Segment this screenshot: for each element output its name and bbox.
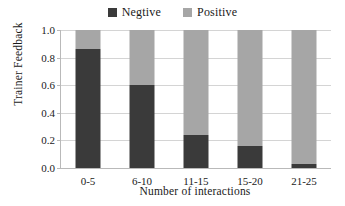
bar-segment-negtive[interactable] <box>238 146 263 168</box>
bar-segment-positive[interactable] <box>238 30 263 146</box>
bar-segment-positive[interactable] <box>184 30 209 135</box>
bar-segment-positive[interactable] <box>130 30 155 85</box>
legend-label-positive: Positive <box>197 6 237 18</box>
bar-group: 0-56-1011-1515-2021-25 <box>61 30 331 168</box>
y-axis-tick-label: 0.0 <box>41 162 55 174</box>
bar-slot: 6-10 <box>115 30 169 168</box>
bar-segment-negtive[interactable] <box>76 49 101 168</box>
y-axis-tick-label: 1.0 <box>41 24 55 36</box>
stacked-bar[interactable] <box>184 30 209 168</box>
stacked-bar[interactable] <box>238 30 263 168</box>
y-axis-tick-label: 0.6 <box>41 79 55 91</box>
y-axis-tick-label: 0.8 <box>41 52 55 64</box>
y-axis-title: Trainer Feedback <box>12 0 24 134</box>
bar-segment-negtive[interactable] <box>292 164 317 168</box>
y-axis-tick-label: 0.2 <box>41 134 55 146</box>
bar-slot: 11-15 <box>169 30 223 168</box>
bar-segment-negtive[interactable] <box>130 85 155 168</box>
legend-item-positive[interactable]: Positive <box>183 6 237 18</box>
y-tick-mark <box>57 168 61 169</box>
bar-segment-positive[interactable] <box>292 30 317 164</box>
legend-label-negtive: Negtive <box>122 6 161 18</box>
bar-segment-negtive[interactable] <box>184 135 209 168</box>
stacked-bar-chart: Negtive Positive Trainer Feedback 1.00.8… <box>0 0 345 206</box>
legend-swatch-positive-icon <box>183 8 192 17</box>
chart-legend: Negtive Positive <box>0 2 345 22</box>
bar-slot: 0-5 <box>61 30 115 168</box>
y-axis-tick-label: 0.4 <box>41 107 55 119</box>
plot-area: 1.00.80.60.40.20.0 0-56-1011-1515-2021-2… <box>60 30 330 168</box>
bar-segment-positive[interactable] <box>76 30 101 49</box>
legend-swatch-negtive-icon <box>108 8 117 17</box>
stacked-bar[interactable] <box>292 30 317 168</box>
stacked-bar[interactable] <box>76 30 101 168</box>
stacked-bar[interactable] <box>130 30 155 168</box>
gridline <box>61 168 331 169</box>
bar-slot: 15-20 <box>223 30 277 168</box>
bar-slot: 21-25 <box>277 30 331 168</box>
x-axis-title: Number of interactions <box>60 185 330 197</box>
legend-item-negtive[interactable]: Negtive <box>108 6 161 18</box>
